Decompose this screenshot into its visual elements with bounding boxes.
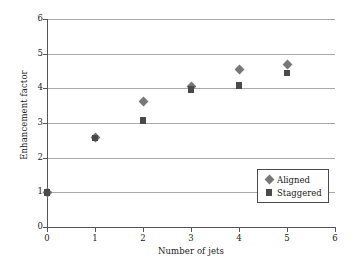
y-tick: 3: [47, 123, 48, 124]
x-axis-title: Number of jets: [47, 246, 335, 256]
plot-area: 0123456 0123456 AlignedStaggered: [47, 19, 335, 228]
chart-legend: AlignedStaggered: [257, 169, 329, 203]
x-tick-mark: [191, 227, 192, 232]
square-marker-icon: [236, 82, 243, 89]
y-tick-mark: [43, 158, 48, 159]
square-marker-icon: [92, 135, 99, 142]
square-marker-icon: [284, 70, 291, 77]
diamond-marker-icon: [263, 174, 275, 186]
x-tick-mark: [287, 227, 288, 232]
x-tick-mark: [95, 227, 96, 232]
legend-label: Staggered: [277, 188, 322, 198]
diamond-marker-icon: [138, 96, 148, 106]
gridline: [47, 123, 335, 124]
x-tick-mark: [47, 227, 48, 232]
x-tick-label: 6: [325, 233, 345, 243]
legend-item[interactable]: Aligned: [263, 173, 322, 186]
x-tick-mark: [143, 227, 144, 232]
legend-item[interactable]: Staggered: [263, 186, 322, 199]
x-tick-label: 5: [277, 233, 297, 243]
x-tick-label: 2: [133, 233, 153, 243]
y-tick-label: 2: [38, 152, 43, 162]
y-tick-label: 4: [38, 82, 43, 92]
gridline: [47, 158, 335, 159]
y-tick-mark: [43, 123, 48, 124]
y-tick-mark: [43, 88, 48, 89]
y-tick: 4: [47, 88, 48, 89]
legend-label: Aligned: [277, 175, 310, 185]
square-marker-icon: [263, 187, 275, 199]
x-tick: 4: [239, 19, 240, 20]
x-tick: 3: [191, 19, 192, 20]
x-tick-mark: [239, 227, 240, 232]
diamond-marker-icon: [282, 60, 292, 70]
y-tick-label: 6: [38, 13, 43, 23]
x-tick: 1: [95, 19, 96, 20]
y-tick-mark: [43, 54, 48, 55]
x-tick-label: 3: [181, 233, 201, 243]
y-axis-title: Enhancement factor: [19, 35, 29, 195]
x-tick-label: 4: [229, 233, 249, 243]
y-tick-label: 3: [38, 117, 43, 127]
diamond-marker-icon: [234, 64, 244, 74]
square-marker-icon: [188, 86, 195, 93]
square-marker-icon: [44, 189, 51, 196]
y-tick-label: 5: [38, 48, 43, 58]
x-tick-label: 0: [37, 233, 57, 243]
y-tick: 5: [47, 54, 48, 55]
x-tick: 0: [47, 19, 48, 20]
x-tick-mark: [335, 227, 336, 232]
x-tick: 6: [335, 19, 336, 20]
x-tick-label: 1: [85, 233, 105, 243]
x-tick: 2: [143, 19, 144, 20]
square-marker-icon: [140, 117, 147, 124]
y-tick-label: 0: [38, 221, 43, 231]
chart-figure: Enhancement factor 0123456 0123456 Align…: [0, 0, 362, 266]
x-tick: 5: [287, 19, 288, 20]
gridline: [47, 54, 335, 55]
y-tick: 2: [47, 158, 48, 159]
